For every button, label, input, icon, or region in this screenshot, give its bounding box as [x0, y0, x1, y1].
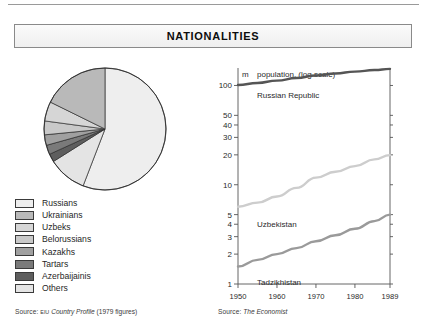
legend-item: Others [15, 282, 185, 294]
legend-swatch [15, 235, 34, 244]
line-source-title: The Economist [243, 308, 287, 315]
x-tick-label: 1950 [230, 292, 247, 301]
x-tick-label: 1980 [346, 292, 363, 301]
top-divider [8, 4, 419, 5]
legend-swatch [15, 284, 34, 293]
legend-item: Tartars [15, 258, 185, 270]
y-tick-label: 2 [228, 250, 233, 259]
y-unit-label: m [242, 70, 249, 79]
line-source-note: Source: The Economist [218, 308, 287, 315]
line-chart-x-axis: 19501960197019801989 [218, 292, 393, 304]
y-tick-label: 4 [228, 220, 233, 229]
pie-source-prefix: Source: [15, 308, 38, 315]
legend-swatch [15, 260, 34, 269]
page-title-banner: NATIONALITIES [14, 24, 412, 48]
series-annotation: Tadzikhistan [257, 278, 301, 287]
legend-label: Belorussians [42, 235, 91, 244]
line-chart: 100504030201054321mpopulation, (log scal… [218, 62, 393, 290]
series-annotation: Uzbekistan [257, 220, 297, 229]
legend-label: Kazakhs [42, 248, 75, 257]
pie-source-suffix: (1979 figures) [97, 308, 138, 315]
legend-swatch [15, 211, 34, 220]
x-tick-label: 1970 [307, 292, 324, 301]
y-tick-label: 30 [223, 133, 232, 142]
pie-chart [36, 66, 176, 196]
legend-item: Kazakhs [15, 246, 185, 258]
legend-label: Ukrainians [42, 211, 83, 220]
y-tick-label: 10 [223, 181, 232, 190]
pie-legend: RussiansUkrainiansUzbeksBelorussiansKaza… [15, 197, 185, 295]
legend-swatch [15, 247, 34, 256]
series-annotation: Russian Republic [257, 91, 319, 100]
legend-item: Russians [15, 197, 185, 209]
legend-swatch [15, 223, 34, 232]
y-tick-label: 40 [223, 121, 232, 130]
y-tick-label: 5 [228, 211, 233, 220]
y-tick-label: 100 [219, 81, 233, 90]
legend-item: Ukrainians [15, 209, 185, 221]
pie-source-title: Country Profile [51, 308, 95, 315]
x-tick-label: 1960 [269, 292, 286, 301]
pie-chart-svg [36, 66, 176, 196]
y-tick-label: 3 [228, 233, 233, 242]
y-tick-label: 1 [228, 280, 233, 289]
pie-source-note: Source: EIU Country Profile (1979 figure… [15, 308, 137, 315]
legend-item: Uzbeks [15, 221, 185, 233]
legend-label: Uzbeks [42, 223, 71, 232]
legend-item: Azerbaijainis [15, 270, 185, 282]
legend-label: Azerbaijainis [42, 272, 91, 281]
legend-swatch [15, 272, 34, 281]
y-tick-label: 20 [223, 151, 232, 160]
line-chart-svg: 100504030201054321mpopulation, (log scal… [218, 62, 393, 290]
series-line [238, 155, 390, 207]
legend-swatch [15, 199, 34, 208]
x-tick-label: 1989 [382, 292, 399, 301]
legend-label: Others [42, 284, 68, 293]
y-tick-label: 50 [223, 111, 232, 120]
pie-source-org: EIU [40, 309, 49, 315]
legend-label: Tartars [42, 260, 68, 269]
legend-label: Russians [42, 199, 77, 208]
legend-item: Belorussians [15, 234, 185, 246]
page-title: NATIONALITIES [167, 30, 260, 42]
line-source-prefix: Source: [218, 308, 241, 315]
